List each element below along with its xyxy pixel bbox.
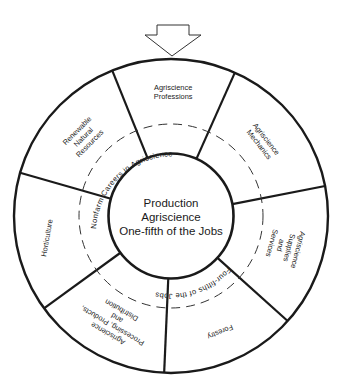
- segment-label-line: Professions: [154, 92, 193, 101]
- segment-label-renewable-natural-resources: RenewableNaturalResources: [61, 114, 106, 159]
- center-title-line-2: Agriscience: [141, 211, 200, 223]
- segment-label-line: Agriscience: [154, 83, 192, 92]
- down-arrow-icon: [145, 25, 201, 56]
- segment-label-line: Horticulture: [39, 218, 54, 257]
- segment-label-horticulture: Horticulture: [39, 218, 54, 257]
- career-wheel-diagram: AgriscienceProfessionsAgriscienceMechani…: [0, 0, 343, 390]
- segment-divider-line: [232, 186, 325, 204]
- segment-label-line: Services: [264, 228, 280, 258]
- segment-label-line: Forestry: [206, 323, 235, 342]
- segment-label-forestry: Forestry: [206, 323, 235, 342]
- segment-label-agriscience-professions: AgriscienceProfessions: [154, 83, 193, 101]
- segment-label-agriscience-supplies-services: AgriscienceSuppliesandServices: [263, 223, 308, 269]
- segment-divider-line: [112, 70, 147, 158]
- center-title-line-3: One-fifth of the Jobs: [119, 225, 223, 237]
- segment-divider-line: [196, 73, 234, 159]
- segment-label-agriscience-processing: AgriscienceProcessing, Products,andDistr…: [75, 288, 155, 355]
- segment-label-agriscience-mechanics: AgriscienceMechanics: [244, 121, 282, 162]
- segment-divider-line: [20, 173, 111, 199]
- center-title-line-1: Production: [144, 197, 199, 209]
